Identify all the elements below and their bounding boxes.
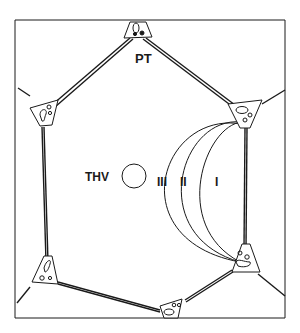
label-thv: THV bbox=[85, 170, 109, 184]
portal-tract-lower-right bbox=[232, 244, 260, 272]
zone-arcs bbox=[164, 122, 242, 262]
liver-lobule-diagram: PT THV III II I bbox=[0, 0, 300, 333]
portal-tract-top bbox=[124, 22, 152, 38]
portal-tract-upper-right bbox=[228, 100, 262, 128]
zone-boundary-inner bbox=[200, 122, 242, 262]
portal-tract-lower-left bbox=[32, 256, 58, 284]
label-zone-2: II bbox=[180, 175, 187, 189]
label-portal-tract: PT bbox=[135, 51, 152, 66]
portal-tract-upper-left bbox=[30, 100, 58, 126]
zone-boundary-outer bbox=[164, 123, 242, 262]
terminal-hepatic-venule bbox=[122, 164, 146, 188]
label-zone-3: III bbox=[157, 175, 167, 189]
portal-tract-bottom bbox=[160, 299, 182, 318]
label-zone-1: I bbox=[215, 175, 218, 189]
